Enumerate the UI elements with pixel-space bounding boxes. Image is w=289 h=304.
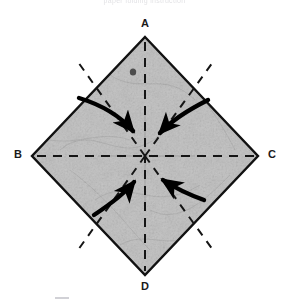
ink-spot	[130, 68, 136, 75]
vertex-label-d: D	[141, 281, 149, 292]
vertex-label-b: B	[14, 149, 22, 160]
fold-diagram	[0, 0, 289, 304]
vertex-label-a: A	[141, 18, 149, 29]
vertex-label-c: C	[268, 149, 276, 160]
figure-canvas: paper folding instruction	[0, 0, 289, 304]
